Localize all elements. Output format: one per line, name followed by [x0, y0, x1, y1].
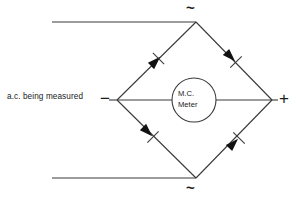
meter-label-line-2: Meter	[178, 100, 197, 111]
diode-bottom-right	[226, 132, 245, 151]
ac-symbol-bottom-icon: ~	[186, 180, 195, 195]
moving-coil-meter-label: M.C. Meter	[178, 89, 197, 110]
circuit-diagram: a.c. being measured − + M.C. Meter ~ ~	[0, 0, 302, 201]
ac-symbol-top-icon: ~	[186, 0, 195, 15]
negative-terminal-label: −	[100, 90, 110, 107]
meter-label-line-1: M.C.	[178, 89, 197, 100]
ac-source-label: a.c. being measured	[7, 93, 83, 101]
positive-terminal-label: +	[279, 90, 289, 107]
diode-bottom-left	[140, 124, 159, 143]
